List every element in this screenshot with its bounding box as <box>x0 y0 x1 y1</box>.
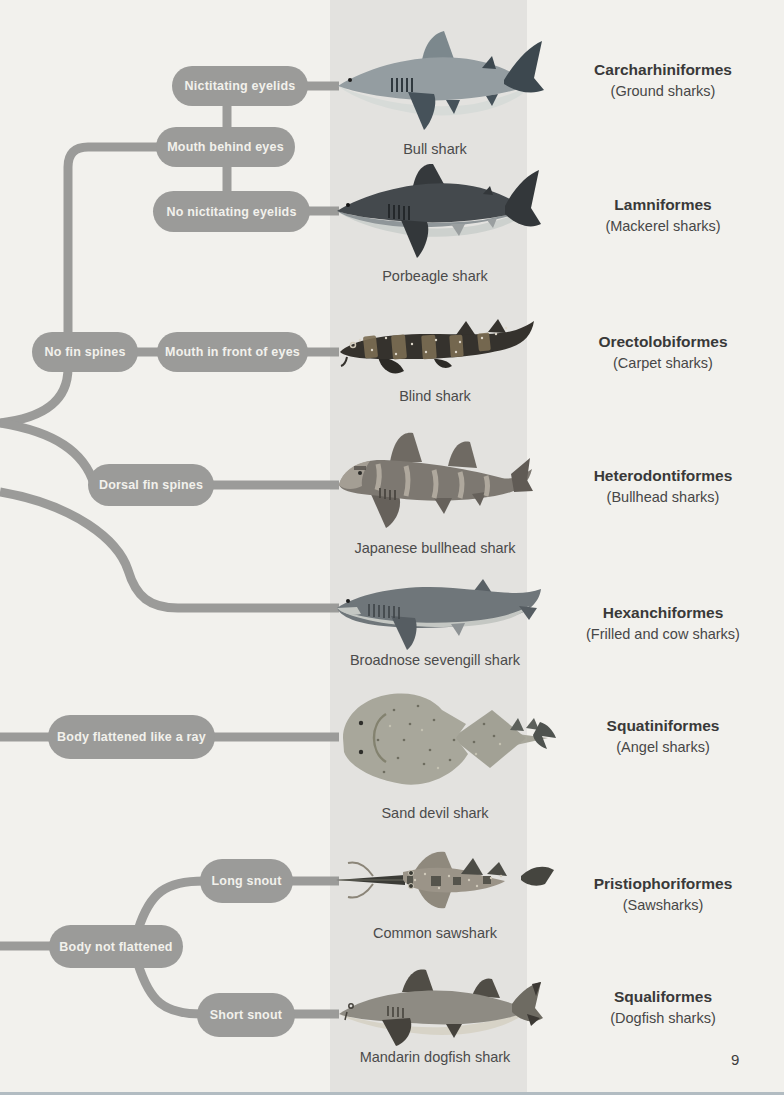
bull-shark-illustration <box>334 28 546 144</box>
species-caption: Common sawshark <box>330 925 540 941</box>
order-label: Orectolobiformes (Carpet sharks) <box>556 330 770 375</box>
order-name: Pristiophoriformes <box>556 872 770 895</box>
order-name: Heterodontiformes <box>556 464 770 487</box>
order-label: Squatiniformes (Angel sharks) <box>556 714 770 759</box>
node-body-not-flattened: Body not flattened <box>49 925 183 968</box>
order-name: Carcharhiniformes <box>556 58 770 81</box>
order-name: Squatiniformes <box>556 714 770 737</box>
node-label: Body not flattened <box>59 940 172 954</box>
order-common: (Bullhead sharks) <box>556 487 770 509</box>
node-label: Body flattened like a ray <box>57 730 206 744</box>
sand-devil-shark-illustration <box>334 680 562 806</box>
node-no-fin-spines: No fin spines <box>32 332 138 372</box>
species-caption: Porbeagle shark <box>330 268 540 284</box>
node-label: Mouth behind eyes <box>167 140 284 154</box>
broadnose-sevengill-shark-illustration <box>333 570 547 658</box>
order-name: Lamniformes <box>556 193 770 216</box>
node-label: Long snout <box>211 874 281 888</box>
node-dorsal-fin-spines: Dorsal fin spines <box>88 464 214 506</box>
species-caption: Bull shark <box>330 141 540 157</box>
order-label: Heterodontiformes (Bullhead sharks) <box>556 464 770 509</box>
order-name: Squaliformes <box>556 985 770 1008</box>
order-common: (Sawsharks) <box>556 895 770 917</box>
order-common: (Ground sharks) <box>556 81 770 103</box>
node-label: Short snout <box>210 1008 282 1022</box>
connector-nofinspines-to-root <box>0 368 68 423</box>
book-page: Nictitating eyelids Mouth behind eyes No… <box>0 0 784 1095</box>
order-common: (Angel sharks) <box>556 737 770 759</box>
species-caption: Blind shark <box>330 388 540 404</box>
order-name: Orectolobiformes <box>556 330 770 353</box>
order-label: Hexanchiformes (Frilled and cow sharks) <box>556 601 770 646</box>
connector-bodynotflattened-to-shortsnout <box>138 964 202 1014</box>
order-label: Squaliformes (Dogfish sharks) <box>556 985 770 1030</box>
order-common: (Dogfish sharks) <box>556 1008 770 1030</box>
order-name: Hexanchiformes <box>556 601 770 624</box>
connector-root-to-hexanchiformes <box>0 492 339 608</box>
connector-bodynotflattened-to-longsnout <box>138 881 204 930</box>
node-label: Dorsal fin spines <box>99 478 203 492</box>
node-body-flattened-like-a-ray: Body flattened like a ray <box>48 715 215 759</box>
node-mouth-in-front-of-eyes: Mouth in front of eyes <box>157 332 308 372</box>
order-common: (Mackerel sharks) <box>556 216 770 238</box>
node-label: No nictitating eyelids <box>166 205 296 219</box>
node-label: Mouth in front of eyes <box>165 345 300 359</box>
order-common: (Frilled and cow sharks) <box>556 624 770 646</box>
page-number: 9 <box>731 1051 739 1068</box>
order-label: Lamniformes (Mackerel sharks) <box>556 193 770 238</box>
node-mouth-behind-eyes: Mouth behind eyes <box>156 127 295 167</box>
connector-root-to-dorsalfinspines <box>0 423 94 484</box>
node-label: Nictitating eyelids <box>185 79 296 93</box>
node-short-snout: Short snout <box>197 993 295 1037</box>
node-nictitating-eyelids: Nictitating eyelids <box>172 66 308 106</box>
order-common: (Carpet sharks) <box>556 353 770 375</box>
species-caption: Sand devil shark <box>330 805 540 821</box>
order-label: Pristiophoriformes (Sawsharks) <box>556 872 770 917</box>
species-caption: Broadnose sevengill shark <box>330 652 540 668</box>
species-caption: Mandarin dogfish shark <box>330 1049 540 1065</box>
porbeagle-shark-illustration <box>333 162 547 266</box>
node-label: No fin spines <box>44 345 125 359</box>
node-no-nictitating-eyelids: No nictitating eyelids <box>153 191 310 232</box>
order-label: Carcharhiniformes (Ground sharks) <box>556 58 770 103</box>
mandarin-dogfish-shark-illustration <box>334 962 548 1054</box>
species-caption: Japanese bullhead shark <box>330 540 540 556</box>
japanese-bullhead-shark-illustration <box>334 428 538 540</box>
common-sawshark-illustration <box>333 846 561 922</box>
blind-shark-illustration <box>336 314 538 392</box>
node-long-snout: Long snout <box>200 859 293 903</box>
connector-mouthbehind-down <box>68 147 160 350</box>
